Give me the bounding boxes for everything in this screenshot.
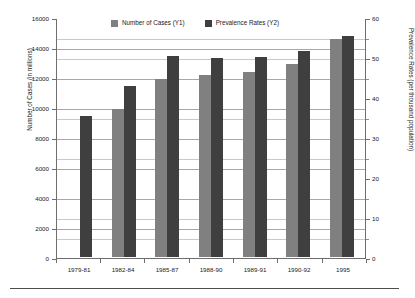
x-ticklabel-1982-84: 1982-84 (101, 266, 145, 273)
x-ticklabel-1990-92: 1990-92 (277, 266, 321, 273)
x-tick-7 (366, 259, 367, 263)
y2-ticklabel-40: 40 (372, 96, 379, 102)
bar-group-1988-90 (189, 19, 233, 257)
y2-ticklabel-20: 20 (372, 176, 379, 182)
x-tick-5 (277, 259, 278, 263)
bar-cases-1985-87 (155, 79, 167, 258)
y1-ticklabel-16000: 16000 (32, 16, 49, 22)
bar-prevalence-1985-87 (167, 56, 179, 257)
footer-divider (10, 288, 399, 289)
y2-tick-5 (366, 239, 369, 240)
bar-group-1990-92 (277, 19, 321, 257)
y2-tick-60 (366, 19, 370, 20)
y2-tick-45 (366, 79, 369, 80)
y1-ticklabel-4000: 4000 (35, 196, 49, 202)
y1-ticklabel-14000: 14000 (32, 46, 49, 52)
legend-label-prevalence: Prevalence Rates (Y2) (216, 19, 279, 27)
bar-cases-1982-84 (112, 109, 124, 257)
x-tick-2 (144, 259, 145, 263)
chart-legend: Number of Cases (Y1) Prevalence Rates (Y… (111, 19, 279, 27)
x-ticklabel-1988-90: 1988-90 (189, 266, 233, 273)
y2-ticklabel-10: 10 (372, 216, 379, 222)
legend-entry-cases: Number of Cases (Y1) (111, 19, 185, 27)
y1-ticklabel-8000: 8000 (35, 136, 49, 142)
x-tick-0 (56, 259, 57, 263)
y2-tick-15 (366, 199, 369, 200)
y2-ticklabel-60: 60 (372, 16, 379, 22)
x-ticklabel-1979-81: 1979-81 (57, 266, 101, 273)
x-tick-6 (322, 259, 323, 263)
y2-tick-20 (366, 179, 370, 180)
y2-tick-35 (366, 119, 369, 120)
x-ticklabel-1985-87: 1985-87 (145, 266, 189, 273)
y2-tick-40 (366, 99, 370, 100)
plot-area (56, 19, 366, 259)
y1-ticklabel-6000: 6000 (35, 166, 49, 172)
legend-swatch-icon-prevalence (205, 20, 212, 27)
bar-prevalence-1995 (342, 36, 354, 257)
bar-group-1979-81 (58, 19, 102, 257)
bar-prevalence-1979-81 (80, 116, 92, 257)
bar-cases-1995 (330, 39, 342, 257)
bar-cases-1988-90 (199, 75, 211, 257)
x-ticklabel-1989-91: 1989-91 (233, 266, 277, 273)
x-axis-labels: 1979-81 1982-84 1985-87 1988-90 1989-91 … (57, 266, 365, 273)
y1-axis-title: Number of Cases (in millions) (26, 15, 33, 165)
y2-ticklabel-30: 30 (372, 136, 379, 142)
legend-entry-prevalence: Prevalence Rates (Y2) (205, 19, 279, 27)
bar-cases-1989-91 (243, 72, 255, 257)
y2-axis-title: Prevalence Rates (per thousand populatio… (408, 0, 415, 185)
bar-prevalence-1990-92 (298, 51, 310, 257)
bar-group-1982-84 (102, 19, 146, 257)
y2-tick-10 (366, 219, 370, 220)
y1-ticklabel-2000: 2000 (35, 226, 49, 232)
x-tick-4 (233, 259, 234, 263)
bar-cases-1990-92 (286, 64, 298, 257)
x-tick-3 (189, 259, 190, 263)
bar-prevalence-1989-91 (255, 57, 267, 257)
bar-group-1985-87 (145, 19, 189, 257)
x-tick-1 (100, 259, 101, 263)
y2-tick-55 (366, 39, 369, 40)
y2-ticklabel-0: 0 (372, 256, 375, 262)
bar-prevalence-1982-84 (124, 86, 136, 257)
y1-ticklabel-12000: 12000 (32, 76, 49, 82)
bar-prevalence-1988-90 (211, 58, 223, 257)
bar-groups (58, 19, 364, 257)
y2-tick-50 (366, 59, 370, 60)
bar-group-1989-91 (233, 19, 277, 257)
x-ticklabel-1995: 1995 (321, 266, 365, 273)
y1-ticklabel-0: 0 (46, 256, 49, 262)
legend-label-cases: Number of Cases (Y1) (122, 19, 185, 27)
y2-tick-25 (366, 159, 369, 160)
bar-group-1995 (320, 19, 364, 257)
legend-swatch-icon-cases (111, 20, 118, 27)
y2-ticklabel-50: 50 (372, 56, 379, 62)
y2-tick-30 (366, 139, 370, 140)
y1-ticklabel-10000: 10000 (32, 106, 49, 112)
